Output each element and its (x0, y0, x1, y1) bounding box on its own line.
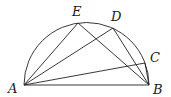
label-E: E (71, 4, 82, 19)
segment-AC (24, 63, 145, 85)
label-C: C (150, 50, 160, 65)
label-A: A (7, 81, 17, 96)
label-D: D (110, 9, 122, 24)
segment-EB (78, 23, 149, 85)
geometry-diagram: A B C D E (0, 0, 171, 97)
segment-AD (24, 28, 113, 85)
label-B: B (152, 82, 163, 97)
semicircle-arc (24, 23, 149, 86)
segment-DB (113, 28, 149, 85)
